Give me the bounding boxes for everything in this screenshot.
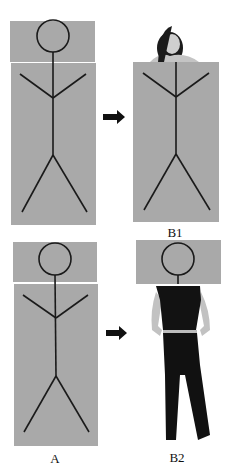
label-b2: B2 bbox=[157, 450, 197, 466]
photo-body-icon bbox=[0, 0, 235, 470]
